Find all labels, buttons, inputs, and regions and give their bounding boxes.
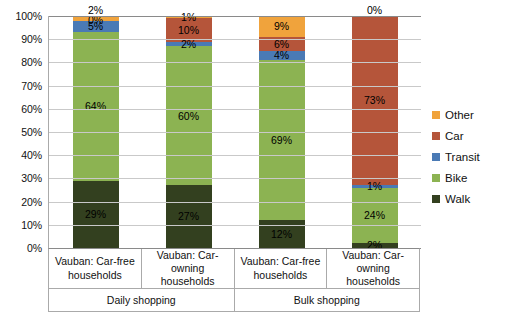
gridline <box>49 39 421 40</box>
category-label-line2: households <box>68 269 122 282</box>
bar-segment-label: 6% <box>274 39 289 50</box>
y-axis-tick: 60% <box>21 103 42 115</box>
y-axis-tick: 30% <box>21 172 42 184</box>
group-label: Daily shopping <box>49 289 235 311</box>
category-label-line2: households <box>346 275 400 288</box>
bar-segment-label: 2% <box>88 5 103 16</box>
legend-label: Bike <box>445 172 467 184</box>
legend-swatch-icon <box>432 174 440 182</box>
legend-label: Car <box>445 130 464 142</box>
bar-segment-label: 73% <box>364 95 385 106</box>
bar-segment-transit[interactable]: 2% <box>166 42 212 47</box>
bar-segment-label: 69% <box>271 135 292 146</box>
legend-swatch-icon <box>432 111 440 119</box>
gridline <box>49 109 421 110</box>
bar-segment-label: 64% <box>85 101 106 112</box>
legend-item-car[interactable]: Car <box>432 125 520 146</box>
bar-segment-bike[interactable]: 60% <box>166 46 212 185</box>
gridline <box>49 62 421 63</box>
plot-area: 29%64%5%0%2%27%60%2%10%1%12%69%4%6%9%2%2… <box>48 16 420 248</box>
y-axis-tick: 10% <box>21 219 42 231</box>
category-label: Vauban: Car-freehouseholds <box>49 249 142 288</box>
y-axis-tick: 50% <box>21 126 42 138</box>
group-label: Bulk shopping <box>235 289 420 311</box>
category-label-line1: Vauban: Car-owning <box>327 249 419 275</box>
legend-item-walk[interactable]: Walk <box>432 188 520 209</box>
legend-item-other[interactable]: Other <box>432 104 520 125</box>
legend-label: Transit <box>445 151 480 163</box>
bar-segment-transit[interactable]: 4% <box>259 51 305 60</box>
bar-segment-label: 10% <box>178 25 199 36</box>
bar-segment-walk[interactable]: 27% <box>166 185 212 248</box>
legend-item-bike[interactable]: Bike <box>432 167 520 188</box>
category-label: Vauban: Car-owninghouseholds <box>327 249 419 288</box>
gridline <box>49 225 421 226</box>
legend-swatch-icon <box>432 195 440 203</box>
bar-segment-label: 2% <box>181 39 196 50</box>
category-label: Vauban: Car-freehouseholds <box>235 249 328 288</box>
y-axis-tick: 20% <box>21 196 42 208</box>
bar-segment-transit[interactable]: 1% <box>352 185 398 187</box>
y-axis-tick: 0% <box>27 242 42 254</box>
bar-segment-label: 60% <box>178 111 199 122</box>
gridline <box>49 132 421 133</box>
category-label-line1: Vauban: Car-owning <box>142 249 234 275</box>
gridline <box>49 202 421 203</box>
y-axis-tick: 80% <box>21 56 42 68</box>
bar-segment-label: 1% <box>181 12 196 23</box>
bar-segment-bike[interactable]: 64% <box>73 32 119 180</box>
bar-segment-label: 0% <box>367 5 382 16</box>
bar-segment-label: 4% <box>274 50 289 61</box>
y-axis-tick: 40% <box>21 149 42 161</box>
bar-segment-label: 24% <box>364 210 385 221</box>
bar-segment-bike[interactable]: 24% <box>352 188 398 244</box>
bar-segment-label: 12% <box>271 229 292 240</box>
stacked-bar-chart: 0%10%20%30%40%50%60%70%80%90%100% 29%64%… <box>0 0 525 313</box>
y-axis-tick: 100% <box>16 10 42 22</box>
category-axis: Vauban: Car-freehouseholdsVauban: Car-ow… <box>48 248 420 288</box>
gridline <box>49 16 421 17</box>
bar-segment-label: 27% <box>178 211 199 222</box>
bar-segment-label: 1% <box>367 181 382 192</box>
legend-swatch-icon <box>432 153 440 161</box>
y-axis-tick: 70% <box>21 80 42 92</box>
bar-segment-walk[interactable]: 29% <box>73 181 119 248</box>
legend-label: Other <box>445 109 474 121</box>
bar-segment-other[interactable]: 9% <box>259 16 305 37</box>
gridline <box>49 155 421 156</box>
bar-segment-bike[interactable]: 69% <box>259 60 305 220</box>
legend: OtherCarTransitBikeWalk <box>432 104 520 209</box>
y-axis-tick: 90% <box>21 33 42 45</box>
gridline <box>49 178 421 179</box>
bar-segment-label: 9% <box>274 21 289 32</box>
category-label-line1: Vauban: Car-free <box>55 255 135 268</box>
legend-swatch-icon <box>432 132 440 140</box>
legend-label: Walk <box>445 193 470 205</box>
category-label-line2: households <box>161 275 215 288</box>
category-label-line2: households <box>254 269 308 282</box>
category-label: Vauban: Car-owninghouseholds <box>142 249 235 288</box>
category-label-line1: Vauban: Car-free <box>240 255 320 268</box>
gridline <box>49 86 421 87</box>
legend-item-transit[interactable]: Transit <box>432 146 520 167</box>
group-axis: Daily shoppingBulk shopping <box>48 288 420 312</box>
bar-segment-label: 29% <box>85 209 106 220</box>
y-axis: 0%10%20%30%40%50%60%70%80%90%100% <box>0 10 46 254</box>
bar-segment-car[interactable]: 73% <box>352 16 398 185</box>
